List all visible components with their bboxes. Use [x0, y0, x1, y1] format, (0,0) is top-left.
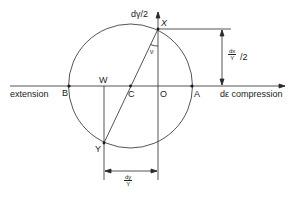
label-b: B [62, 89, 68, 98]
label-c: C [128, 90, 135, 99]
x-axis-arrow-icon [279, 84, 285, 88]
y-axis-label: dγ/2 [131, 10, 148, 19]
x-axis-label: dε compression [220, 90, 283, 99]
point-y-dot [103, 142, 106, 145]
angle-arc [151, 45, 159, 47]
right-dimension-fraction: dx Y [228, 48, 236, 61]
point-x-dot [157, 28, 160, 31]
label-a: A [194, 90, 200, 99]
bottom-dimension-fraction: dy Y [124, 174, 132, 187]
angle-label: ν [150, 48, 154, 55]
extension-label: extension [10, 90, 49, 99]
point-a-dot [190, 84, 193, 87]
label-x: X [161, 19, 167, 28]
label-y: Y [95, 145, 101, 154]
label-w: W [99, 76, 108, 85]
y-axis-arrow-icon [156, 12, 160, 18]
label-o: O [160, 90, 167, 99]
point-c-dot [129, 85, 132, 88]
right-dimension-suffix: /2 [240, 53, 248, 62]
